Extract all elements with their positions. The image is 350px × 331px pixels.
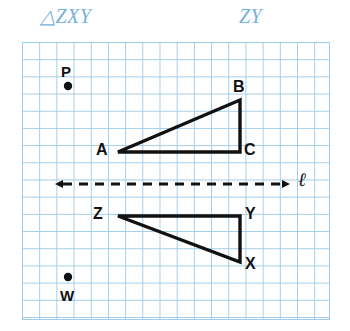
figure-svg [0,0,350,331]
vertex-label-z: Z [93,206,103,222]
geometry-figure-panel: △ZXY ZY P W A B C Z Y X ℓ [0,0,350,331]
vertex-label-b: B [233,79,245,95]
triangle-zxy [118,216,240,262]
point-w-dot [64,273,72,281]
point-label-w: W [60,288,74,303]
point-label-p: P [61,64,71,79]
point-p-dot [64,82,72,90]
vertex-label-y: Y [245,206,256,222]
triangle-abc [118,100,240,152]
vertex-label-a: A [96,142,108,158]
line-label-ell: ℓ [298,170,306,189]
vertex-label-x: X [245,256,256,272]
vertex-label-c: C [244,142,256,158]
